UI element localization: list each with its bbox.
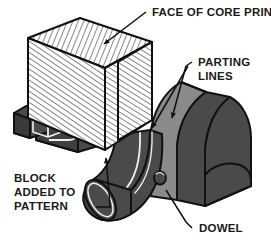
illustration-geometry: FACE OF CORE PRINT PARTING LINES BLOCK A…: [14, 6, 271, 234]
dowel-pin: [154, 172, 166, 185]
technical-illustration-figure: FACE OF CORE PRINT PARTING LINES BLOCK A…: [0, 0, 271, 247]
callout-label-block-line2: ADDED TO: [14, 186, 75, 198]
callout-label-dowel: DOWEL: [199, 222, 243, 234]
callout-parting-lines: PARTING LINES: [198, 56, 250, 82]
callout-label-block-line1: BLOCK: [14, 172, 56, 184]
callout-label-parting-lines-line1: PARTING: [198, 56, 250, 68]
callout-label-face-of-core-print: FACE OF CORE PRINT: [152, 6, 271, 18]
callout-face-of-core-print: FACE OF CORE PRINT: [152, 6, 271, 18]
callout-block-added-to-pattern: BLOCK ADDED TO PATTERN: [14, 172, 75, 212]
callout-label-block-line3: PATTERN: [14, 200, 68, 212]
figure-canvas: FACE OF CORE PRINT PARTING LINES BLOCK A…: [0, 0, 271, 247]
callout-label-parting-lines-line2: LINES: [198, 70, 233, 82]
callout-dowel: DOWEL: [199, 222, 243, 234]
